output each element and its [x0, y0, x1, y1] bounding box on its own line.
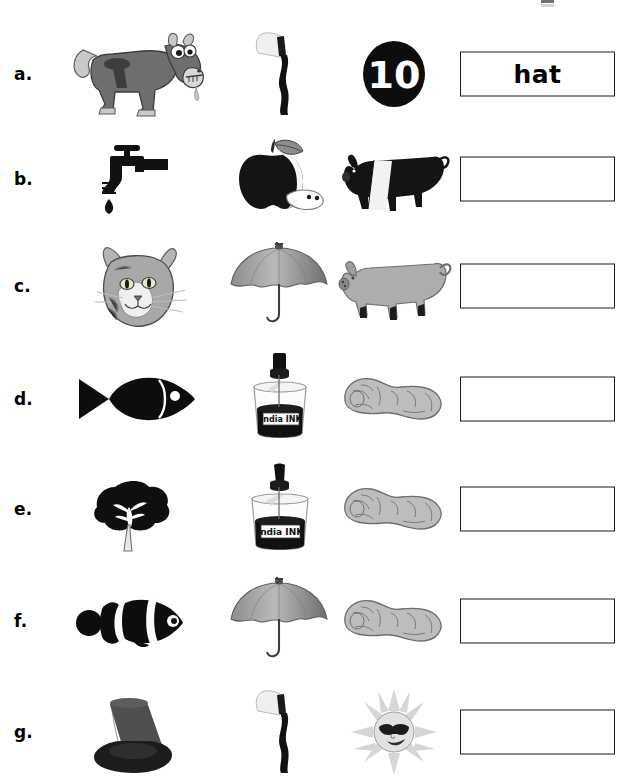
- ink-label: India INK: [260, 415, 302, 424]
- picture-umbrella: [220, 240, 340, 332]
- worksheet-row: g.: [0, 678, 625, 779]
- picture-peanut: [334, 353, 454, 445]
- row-label-b: b.: [14, 169, 33, 189]
- picture-ink-bottle: India INK: [220, 353, 340, 445]
- worksheet-row: b.: [0, 125, 625, 233]
- picture-peanut: [334, 575, 454, 667]
- answer-box-d[interactable]: [460, 377, 615, 422]
- picture-cat: [60, 240, 220, 332]
- ten-label: 10: [368, 53, 421, 97]
- worksheet-row: f.: [0, 567, 625, 675]
- picture-axe: [220, 686, 340, 778]
- picture-ink-bottle: India INK: [220, 463, 340, 555]
- picture-umbrella: [220, 575, 340, 667]
- picture-top-hat: [60, 686, 220, 778]
- answer-box-e[interactable]: [460, 487, 615, 532]
- row-label-e: e.: [14, 499, 32, 519]
- picture-tree: [60, 463, 220, 555]
- row-label-g: g.: [14, 722, 33, 742]
- answer-box-b[interactable]: [460, 157, 615, 202]
- row-label-a: a.: [14, 64, 32, 84]
- answer-text-a: hat: [513, 62, 561, 87]
- picture-axe: [220, 28, 340, 120]
- picture-peanut: [334, 463, 454, 555]
- worksheet-row: e.: [0, 455, 625, 563]
- row-label-d: d.: [14, 389, 33, 409]
- picture-clownfish: [60, 575, 220, 667]
- worksheet-row: c.: [0, 232, 625, 340]
- picture-sun: [334, 686, 454, 778]
- answer-box-f[interactable]: [460, 599, 615, 644]
- row-label-f: f.: [14, 611, 27, 631]
- picture-pig-belted: [334, 133, 454, 225]
- picture-fish: [60, 353, 220, 445]
- worksheet-row: a.: [0, 20, 625, 128]
- answer-box-g[interactable]: [460, 710, 615, 755]
- picture-pig-grey: [334, 240, 454, 332]
- answer-box-a[interactable]: hat: [460, 52, 615, 97]
- picture-horse: [60, 28, 220, 120]
- picture-apple: [220, 133, 340, 225]
- answer-box-c[interactable]: [460, 264, 615, 309]
- picture-ten: 10: [334, 28, 454, 120]
- row-label-c: c.: [14, 276, 31, 296]
- picture-tap: [60, 133, 220, 225]
- worksheet-row: d. India INK: [0, 345, 625, 453]
- ink-label: India INK: [257, 527, 304, 537]
